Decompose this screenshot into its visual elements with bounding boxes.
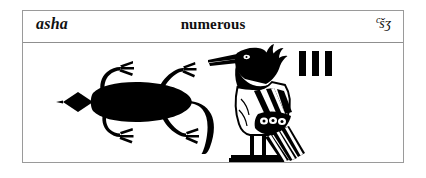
glyph-panel [23, 43, 403, 162]
plural-stroke-3 [325, 51, 332, 76]
lizard-glyph [45, 54, 215, 154]
plural-stroke-1 [299, 51, 306, 76]
plural-stroke-2 [312, 51, 319, 76]
plural-strokes-glyph [295, 51, 337, 79]
card-header: asha numerous cšʒ [23, 11, 403, 42]
transliteration-body: šʒ [379, 16, 391, 31]
transliteration: cšʒ [376, 14, 391, 32]
word-meaning: numerous [23, 16, 403, 33]
crested-bird-glyph [206, 39, 308, 163]
hieroglyph-entry-card: asha numerous cšʒ [22, 10, 404, 163]
